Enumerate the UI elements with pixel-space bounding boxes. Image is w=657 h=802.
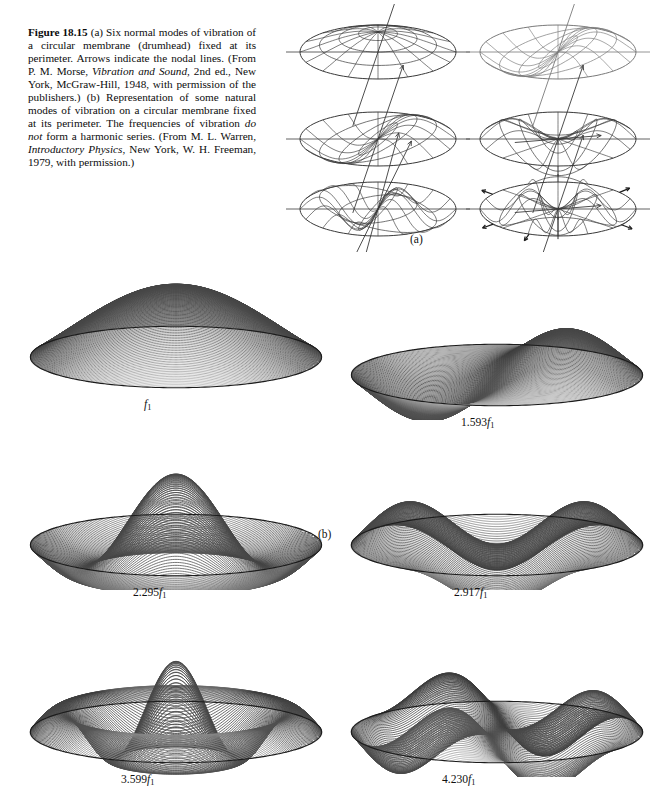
caption-text-3: form a harmonic series. (From M. L. Warr… [42,130,256,142]
mode-cell-3599f1: 3.599f1 [16,627,336,802]
mode-surface-1593f1 [337,270,657,420]
mode-cell-f1: f1 [16,252,336,435]
mode-cell-1593f1: 1.593f1 [337,270,657,453]
mode-label-1593f1: 1.593f1 [461,416,495,430]
mode-label-2295f1: 2.295f1 [133,586,167,600]
wire-mode-1 [286,4,470,126]
mode-label-2917f1: 2.917f1 [454,586,488,600]
mode-surface-f1 [16,252,336,402]
part-a-wireframe-panel [286,4,654,252]
wire-mode-2 [466,4,650,126]
panel-a-label: (a) [410,233,423,245]
panel-b-label: (b) [318,528,331,540]
mode-surface-2295f1 [16,440,336,590]
mode-label-4230f1: 4.230f1 [442,773,476,787]
caption-citation-morse-title: Vibration and Sound [92,65,187,77]
caption-citation-warren-title: Introductory Physics [28,143,122,155]
mode-cell-2917f1: 2.917f1 [337,440,657,623]
mode-surface-4230f1 [337,627,657,777]
wireframe-diagram-group [286,4,654,252]
figure-number: Figure 18.15 [28,26,88,38]
mode-cell-2295f1: 2.295f1 [16,440,336,623]
mode-surface-2917f1 [337,440,657,590]
part-b-surface-panel: f1 1.593f1 2.295f1 2.917f1 3.599f1 4.230… [0,252,657,802]
figure-caption: Figure 18.15 (a) Six normal modes of vib… [28,26,256,169]
mode-surface-3599f1 [16,627,336,777]
mode-label-f1: f1 [144,398,151,412]
mode-cell-4230f1: 4.230f1 [337,627,657,802]
mode-label-3599f1: 3.599f1 [121,773,155,787]
